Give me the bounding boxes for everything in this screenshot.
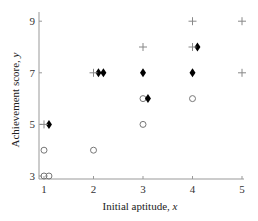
data-points bbox=[40, 17, 246, 179]
x-tick-label: 1 bbox=[41, 183, 47, 195]
y-ticks: 3579 bbox=[30, 15, 43, 182]
plus-marker-icon bbox=[189, 43, 197, 51]
plus-marker-icon bbox=[238, 69, 246, 77]
x-tick-label: 5 bbox=[239, 183, 245, 195]
y-tick-label: 5 bbox=[30, 118, 36, 130]
diamond-marker-icon bbox=[145, 94, 151, 103]
circle-marker-icon bbox=[190, 96, 196, 102]
plus-marker-icon bbox=[90, 69, 98, 77]
plus-marker-icon bbox=[40, 120, 48, 128]
x-axis: 12345 bbox=[39, 176, 245, 195]
diamond-marker-icon bbox=[100, 68, 106, 77]
circle-marker-icon bbox=[41, 147, 47, 153]
circle-marker-icon bbox=[91, 147, 97, 153]
y-axis: 3579 bbox=[30, 12, 43, 182]
x-axis-label: Initial aptitude, x bbox=[103, 200, 178, 212]
y-tick-label: 7 bbox=[30, 67, 36, 79]
diamond-marker-icon bbox=[190, 68, 196, 77]
y-axis-label: Achievement score, y bbox=[9, 52, 21, 147]
y-tick-label: 9 bbox=[30, 15, 36, 27]
plus-marker-icon bbox=[189, 17, 197, 25]
x-tick-label: 3 bbox=[140, 183, 146, 195]
y-tick-label: 3 bbox=[30, 170, 36, 182]
x-tick-label: 2 bbox=[91, 183, 97, 195]
x-tick-label: 4 bbox=[190, 183, 196, 195]
circle-marker-icon bbox=[140, 121, 146, 127]
scatter-chart: 3579 12345 Initial aptitude, x Achieveme… bbox=[0, 0, 258, 221]
diamond-marker-icon bbox=[140, 68, 146, 77]
plus-marker-icon bbox=[238, 17, 246, 25]
plus-marker-icon bbox=[139, 43, 147, 51]
